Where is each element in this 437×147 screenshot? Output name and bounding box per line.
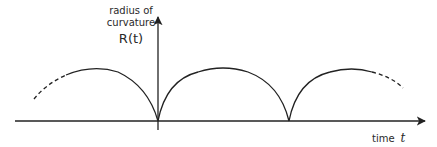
curve-right-dashed: [372, 72, 403, 88]
y-axis-label-line1: radius of: [109, 5, 153, 16]
x-axis-symbol: t: [401, 131, 406, 145]
y-axis-symbol: R(t): [113, 31, 149, 46]
curve-middle-arch: [158, 68, 289, 121]
curve-right-arch: [289, 69, 372, 121]
x-axis-label: timet: [372, 131, 405, 145]
y-axis-label-line2: curvature: [105, 17, 157, 28]
x-axis-label-text: time: [372, 133, 395, 144]
curvature-diagram: [0, 0, 437, 147]
curve-left-arch: [66, 69, 158, 121]
curve-left-dashed: [34, 75, 66, 99]
